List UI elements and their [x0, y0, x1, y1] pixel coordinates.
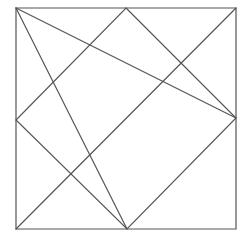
- diagonal-lines: [16, 8, 236, 229]
- line-top-left-to-right-mid: [16, 8, 236, 118]
- diagram-canvas: [0, 0, 248, 237]
- line-top-left-to-bottom-mid: [16, 8, 127, 229]
- line-top-right-to-bottom-left: [16, 8, 236, 229]
